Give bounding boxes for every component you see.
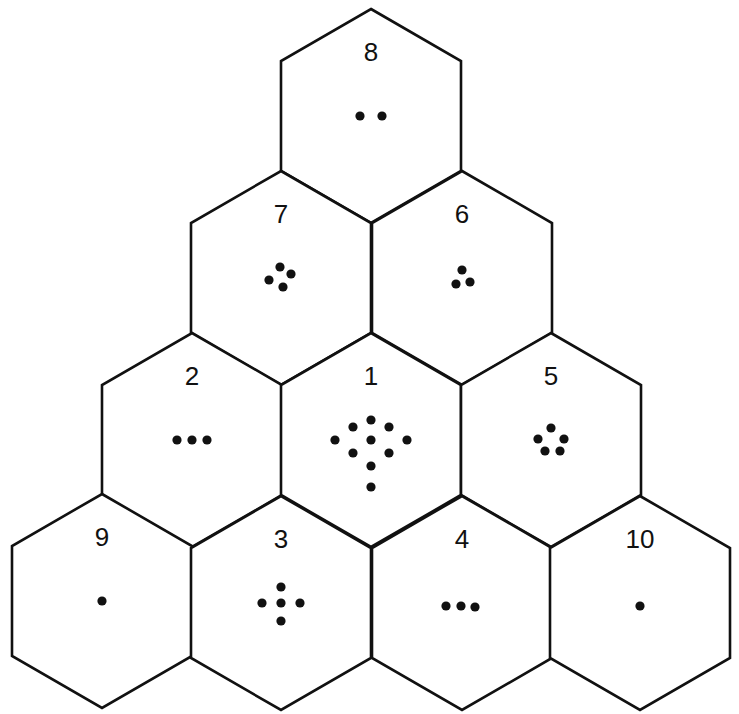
dot-pattern: [97, 596, 106, 605]
dot-icon: [555, 446, 564, 455]
dot-pattern: [441, 601, 479, 611]
dot-icon: [264, 275, 273, 284]
dot-icon: [276, 616, 285, 625]
dot-icon: [202, 435, 211, 444]
dot-icon: [465, 277, 474, 286]
dot-icon: [187, 435, 196, 444]
dot-icon: [402, 435, 411, 444]
cell-number-label: 6: [455, 199, 469, 229]
dot-icon: [295, 598, 304, 607]
dot-icon: [172, 435, 181, 444]
dot-icon: [470, 602, 479, 611]
dot-icon: [384, 448, 393, 457]
dot-icon: [540, 446, 549, 455]
dot-icon: [559, 434, 568, 443]
dot-icon: [97, 596, 106, 605]
dot-icon: [275, 262, 284, 271]
dot-icon: [635, 601, 644, 610]
cell-number-label: 2: [185, 361, 199, 391]
dot-icon: [384, 422, 393, 431]
dot-icon: [257, 598, 266, 607]
dot-icon: [348, 422, 357, 431]
dot-icon: [366, 435, 375, 444]
cells-group: 87621593410: [12, 9, 730, 710]
dot-icon: [533, 434, 542, 443]
dot-icon: [348, 448, 357, 457]
dot-icon: [546, 423, 555, 432]
hex-pyramid-diagram: 87621593410: [0, 0, 739, 714]
cell-number-label: 9: [95, 522, 109, 552]
cell-number-label: 5: [544, 361, 558, 391]
dot-icon: [276, 582, 285, 591]
dot-icon: [366, 415, 375, 424]
dot-icon: [355, 111, 364, 120]
cell-number-label: 10: [626, 524, 655, 554]
dot-icon: [366, 482, 375, 491]
dot-icon: [457, 265, 466, 274]
dot-icon: [330, 435, 339, 444]
cell-number-label: 7: [274, 199, 288, 229]
dot-icon: [286, 269, 295, 278]
cell-number-label: 1: [364, 361, 378, 391]
dot-icon: [276, 598, 285, 607]
dot-icon: [377, 111, 386, 120]
cell-number-label: 8: [364, 37, 378, 67]
dot-icon: [278, 282, 287, 291]
dot-pattern: [172, 435, 211, 444]
dot-icon: [441, 601, 450, 610]
cell-number-label: 3: [274, 524, 288, 554]
dot-icon: [456, 601, 465, 610]
cell-number-label: 4: [455, 524, 469, 554]
dot-icon: [366, 461, 375, 470]
dot-pattern: [635, 601, 644, 610]
dot-icon: [451, 279, 460, 288]
